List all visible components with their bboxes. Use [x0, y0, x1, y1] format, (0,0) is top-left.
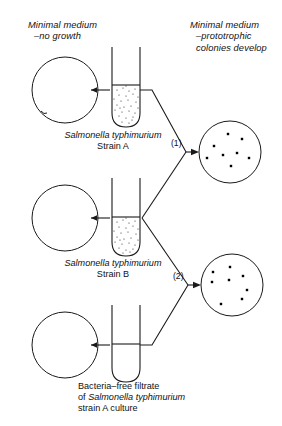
- caption-strain-b-species: Salmonella typhimurium: [54, 258, 172, 269]
- arrow-tube-filtrate-to-empty-plate: [91, 342, 110, 347]
- transduction-diagram: Minimal medium –no growth Minimal medium…: [0, 0, 282, 426]
- arrow-tube-b-to-empty-plate: [91, 215, 110, 220]
- caption-filtrate-line2-prefix: of: [78, 392, 88, 402]
- tube-strain-a: [112, 47, 140, 127]
- header-left-line2: –no growth: [28, 31, 97, 42]
- caption-filtrate-line3: strain A culture: [78, 403, 185, 414]
- header-right-line2: –prototrophic: [190, 31, 267, 42]
- empty-plate-middle: [32, 185, 98, 251]
- result-label-one: (1): [171, 138, 182, 148]
- header-left-minimal-medium: Minimal medium –no growth: [28, 20, 97, 43]
- tube-strain-b: [112, 178, 140, 256]
- header-right-line3: colonies develop: [190, 43, 267, 54]
- header-right-minimal-medium: Minimal medium –prototrophic colonies de…: [190, 20, 267, 54]
- header-right-line1: Minimal medium: [190, 20, 267, 31]
- tube-filtrate: [112, 305, 140, 382]
- caption-filtrate-line1: Bacteria–free filtrate: [78, 381, 185, 392]
- pathway-to-result-one: [140, 90, 199, 218]
- result-label-two: (2): [173, 271, 184, 281]
- diagram-canvas: [0, 0, 282, 426]
- caption-strain-a: Salmonella typhimurium Strain A: [54, 130, 172, 152]
- tube-strain-a-culture: [113, 85, 138, 123]
- colony-plate-one: [199, 121, 261, 183]
- header-left-line1: Minimal medium: [28, 20, 97, 31]
- caption-strain-b-strain: Strain B: [54, 269, 172, 280]
- empty-plate-bottom: [32, 312, 98, 378]
- caption-strain-a-species: Salmonella typhimurium: [54, 130, 172, 141]
- empty-plate-top: [32, 57, 98, 123]
- tube-strain-b-culture: [113, 217, 138, 253]
- pathway-to-result-two: [140, 218, 201, 345]
- caption-strain-a-strain: Strain A: [54, 141, 172, 152]
- caption-filtrate-line2: of Salmonella typhimurium: [78, 392, 185, 403]
- colony-plate-two: [201, 254, 263, 316]
- caption-filtrate: Bacteria–free filtrate of Salmonella typ…: [78, 381, 185, 414]
- caption-filtrate-line2-species: Salmonella typhimurium: [88, 392, 185, 402]
- caption-strain-b: Salmonella typhimurium Strain B: [54, 258, 172, 280]
- arrow-tube-a-to-empty-plate: [91, 87, 110, 92]
